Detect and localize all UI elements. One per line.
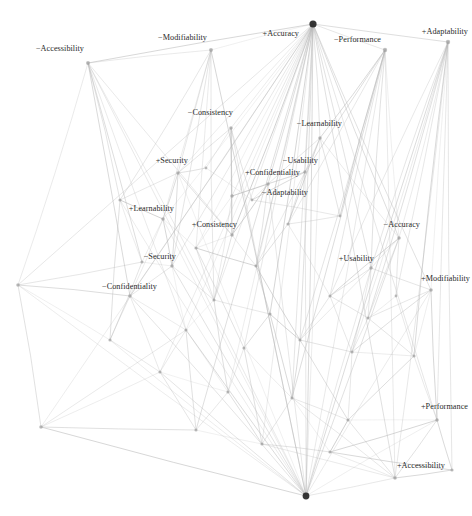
graph-node[interactable] xyxy=(230,233,234,237)
network-graph-svg xyxy=(0,0,472,516)
graph-node-label: +Accessibility xyxy=(397,462,445,470)
graph-node-label: −Adaptability xyxy=(262,189,308,197)
graph-node-unlabelled[interactable] xyxy=(298,338,301,341)
graph-node[interactable] xyxy=(266,182,270,186)
graph-node[interactable] xyxy=(86,61,90,65)
graph-node[interactable] xyxy=(318,136,322,140)
graph-edge xyxy=(18,63,88,285)
graph-node-unlabelled[interactable] xyxy=(286,222,289,225)
graph-edge xyxy=(431,290,437,420)
graph-node[interactable] xyxy=(229,126,233,130)
graph-edge xyxy=(330,452,395,478)
graph-node-unlabelled[interactable] xyxy=(395,295,398,298)
graph-edge xyxy=(18,285,41,427)
graph-node-label: −Security xyxy=(144,253,176,261)
graph-edge xyxy=(256,224,288,266)
graph-node-unlabelled[interactable] xyxy=(16,283,20,287)
graph-node-unlabelled[interactable] xyxy=(39,425,43,429)
graph-edge xyxy=(262,444,395,478)
graph-edge xyxy=(196,392,228,430)
graph-node[interactable] xyxy=(435,418,439,422)
graph-node-unlabelled[interactable] xyxy=(242,346,245,349)
graph-node[interactable] xyxy=(429,288,433,292)
graph-node[interactable] xyxy=(161,217,165,221)
graph-node-unlabelled[interactable] xyxy=(268,312,271,315)
graph-edge xyxy=(352,42,448,352)
graph-node-unlabelled[interactable] xyxy=(184,328,187,331)
graph-node-unlabelled[interactable] xyxy=(290,396,293,399)
graph-node-unlabelled[interactable] xyxy=(303,493,310,500)
graph-edge xyxy=(196,430,262,444)
graph-node-unlabelled[interactable] xyxy=(158,370,161,373)
graph-node-unlabelled[interactable] xyxy=(212,298,215,301)
graph-edge xyxy=(163,219,306,496)
graph-node-unlabelled[interactable] xyxy=(194,428,197,431)
graph-edge xyxy=(292,398,348,420)
graph-edge xyxy=(396,42,448,296)
graph-node-label: +Accuracy xyxy=(263,30,299,38)
graph-node-label: −Consistency xyxy=(188,109,233,117)
graph-edge xyxy=(330,420,437,452)
graph-node[interactable] xyxy=(170,264,174,268)
graph-node-unlabelled[interactable] xyxy=(328,294,331,297)
graph-edge xyxy=(214,300,228,392)
graph-edge xyxy=(130,296,306,496)
graph-node-label: −Learnability xyxy=(297,120,342,128)
graph-node-label: +Consistency xyxy=(192,221,237,229)
graph-node-unlabelled[interactable] xyxy=(254,264,257,267)
graph-node-unlabelled[interactable] xyxy=(328,450,331,453)
graph-node[interactable] xyxy=(393,476,397,480)
graph-node[interactable] xyxy=(209,48,213,52)
graph-edge xyxy=(160,330,186,372)
graph-node[interactable] xyxy=(128,294,132,298)
graph-node[interactable] xyxy=(383,48,387,52)
graph-edge xyxy=(196,248,256,266)
graph-node-label: −Accessibility xyxy=(36,45,84,53)
graph-node[interactable] xyxy=(397,236,401,240)
graph-edge xyxy=(18,285,110,340)
graph-edge xyxy=(120,50,211,200)
graph-node-unlabelled[interactable] xyxy=(260,442,263,445)
graph-edge xyxy=(172,24,313,266)
graph-edge xyxy=(142,262,172,266)
graph-edge xyxy=(292,340,300,398)
graph-edge xyxy=(163,50,211,219)
graph-node-label: −Usability xyxy=(283,157,318,165)
graph-edge xyxy=(348,420,395,478)
graph-node[interactable] xyxy=(176,171,180,175)
graph-node-unlabelled[interactable] xyxy=(346,418,349,421)
graph-node-unlabelled[interactable] xyxy=(366,316,369,319)
graph-edge xyxy=(41,427,196,430)
graph-node[interactable] xyxy=(230,194,234,198)
graph-node[interactable] xyxy=(303,170,307,174)
graph-edge xyxy=(313,24,399,238)
graph-edge xyxy=(385,50,395,478)
graph-node-unlabelled[interactable] xyxy=(108,338,111,341)
graph-edge xyxy=(214,196,232,300)
graph-node-unlabelled[interactable] xyxy=(118,198,121,201)
graph-node-label: +Usability xyxy=(339,255,374,263)
graph-edge xyxy=(330,296,368,318)
graph-node-unlabelled[interactable] xyxy=(450,468,453,471)
graph-node-unlabelled[interactable] xyxy=(205,167,208,170)
graph-edge xyxy=(437,42,448,420)
graph-edge xyxy=(352,352,414,356)
graph-node[interactable] xyxy=(446,40,450,44)
graph-node-unlabelled[interactable] xyxy=(412,354,415,357)
graph-edge xyxy=(270,314,300,340)
graph-node[interactable] xyxy=(309,20,316,27)
graph-node-unlabelled[interactable] xyxy=(350,350,353,353)
graph-node-unlabelled[interactable] xyxy=(251,199,254,202)
graph-edge xyxy=(348,352,352,420)
graph-edge xyxy=(110,340,306,496)
graph-edge xyxy=(172,266,306,496)
graph-edge xyxy=(292,398,330,452)
graph-node-unlabelled[interactable] xyxy=(339,215,342,218)
graph-edge xyxy=(399,42,448,238)
graph-edge xyxy=(186,330,306,496)
graph-node[interactable] xyxy=(369,266,373,270)
graph-node-label: +Adaptability xyxy=(422,28,468,36)
graph-node-unlabelled[interactable] xyxy=(226,390,229,393)
graph-node-unlabelled[interactable] xyxy=(194,246,197,249)
graph-node-label: +Security xyxy=(156,157,188,165)
